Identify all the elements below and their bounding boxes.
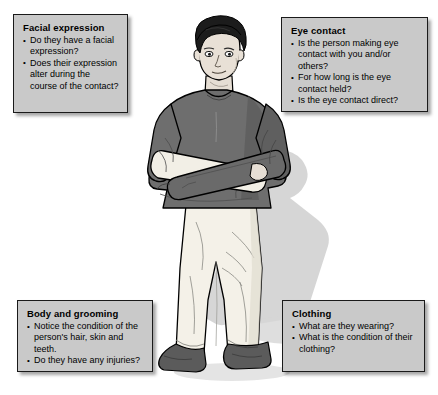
info-box-eye-contact: Eye contact Is the person making eye con… xyxy=(281,17,428,112)
list-item: Notice the condition of the person's hai… xyxy=(27,321,144,355)
head xyxy=(194,16,246,80)
diagram-canvas: Facial expression Do they have a facial … xyxy=(0,0,438,395)
list-item: What are they wearing? xyxy=(292,321,416,332)
list-item: For how long is the eye contact held? xyxy=(291,72,419,95)
list-item: Is the eye contact direct? xyxy=(291,95,419,106)
info-box-clothing: Clothing What are they wearing? What is … xyxy=(282,300,425,372)
shoes xyxy=(159,342,271,372)
box-title: Facial expression xyxy=(23,22,119,34)
box-title: Clothing xyxy=(292,308,416,320)
list-item: Is the person making eye contact with yo… xyxy=(291,38,419,72)
list-item: What is the condition of their clothing? xyxy=(292,332,416,355)
box-title: Eye contact xyxy=(291,25,419,37)
trousers xyxy=(176,205,262,353)
box-item-list: Do they have a facial expression? Does t… xyxy=(23,35,119,92)
neck xyxy=(205,76,233,94)
shirt xyxy=(149,90,286,208)
crossed-arms xyxy=(148,104,291,200)
ground-shadow xyxy=(174,363,290,381)
box-item-list: What are they wearing? What is the condi… xyxy=(292,321,416,355)
info-box-body-and-grooming: Body and grooming Notice the condition o… xyxy=(17,300,153,372)
info-box-facial-expression: Facial expression Do they have a facial … xyxy=(13,14,128,113)
list-item: Do they have any injuries? xyxy=(27,355,144,366)
box-title: Body and grooming xyxy=(27,308,144,320)
list-item: Does their expression alter during the c… xyxy=(23,58,119,92)
list-item: Do they have a facial expression? xyxy=(23,35,119,58)
box-item-list: Is the person making eye contact with yo… xyxy=(291,38,419,106)
box-item-list: Notice the condition of the person's hai… xyxy=(27,321,144,367)
